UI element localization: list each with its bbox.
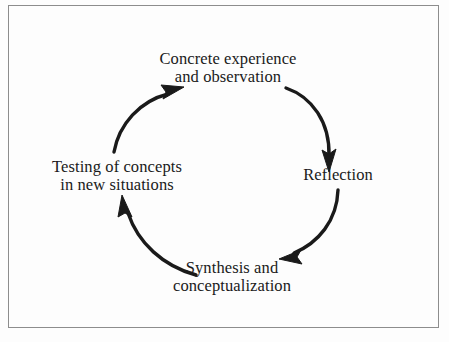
node-label-synthesis-line-1: Synthesis and <box>128 259 336 277</box>
node-label-concrete-line-1: Concrete experience <box>104 50 352 68</box>
node-label-testing-line-2: in new situations <box>16 176 218 194</box>
arrow-reflection-to-synthesis <box>279 190 338 264</box>
cycle-diagram-figure: Concrete experience and observation Refl… <box>0 0 449 342</box>
node-label-concrete-line-2: and observation <box>104 68 352 86</box>
node-label-testing-line-1: Testing of concepts <box>16 158 218 176</box>
node-label-synthesis: Synthesis and conceptualization <box>128 259 336 294</box>
node-label-reflection: Reflection <box>278 166 398 184</box>
node-label-testing-of-concepts: Testing of concepts in new situations <box>16 158 218 193</box>
node-label-reflection-line-1: Reflection <box>278 166 398 184</box>
node-label-synthesis-line-2: conceptualization <box>128 277 336 295</box>
node-label-concrete-experience: Concrete experience and observation <box>104 50 352 85</box>
arrow-concrete-to-reflection <box>286 88 336 172</box>
arrow-testing-to-concrete <box>114 85 184 152</box>
